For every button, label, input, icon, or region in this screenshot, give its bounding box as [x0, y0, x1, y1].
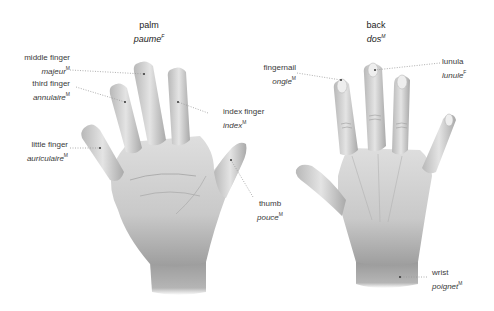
hands-illustration	[0, 0, 494, 311]
palm-hand	[81, 61, 246, 295]
palm-title: palm paumeF	[126, 20, 172, 45]
label-third-finger: third finger annulaireM	[0, 79, 70, 103]
label-little-finger: little finger auriculaireM	[0, 140, 68, 164]
label-thumb: thumb pouceM	[252, 199, 288, 223]
label-wrist: wrist poignetM	[432, 268, 462, 292]
label-middle-finger: middle finger majeurM	[0, 53, 70, 77]
back-hand	[296, 63, 456, 288]
back-title: back dosM	[356, 20, 396, 45]
palm-title-fr: paumeF	[126, 31, 172, 45]
back-title-en: back	[356, 20, 396, 31]
label-fingernail: fingernail ongleM	[248, 63, 296, 87]
hand-anatomy-diagram: palm paumeF back dosM middle finger maje…	[0, 0, 494, 311]
label-index-finger: index finger indexM	[223, 107, 264, 131]
palm-title-en: palm	[126, 20, 172, 31]
back-title-fr: dosM	[356, 31, 396, 45]
label-lunula: lunula lunuleF	[442, 57, 466, 81]
